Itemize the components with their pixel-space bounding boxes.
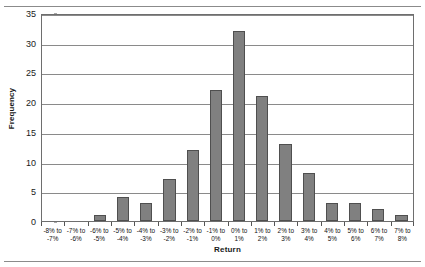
x-tick-mark [228, 222, 229, 226]
x-tick-label-line: -6% to [88, 227, 111, 235]
bar [187, 150, 199, 221]
x-tick-label-line: 4% to [321, 227, 344, 235]
x-tick-slot [321, 222, 344, 226]
x-tick-slot [251, 222, 274, 226]
x-tick-slot [274, 222, 297, 226]
x-tick-label: -7% to-6% [64, 227, 87, 242]
x-tick-label-line: 0% [204, 235, 227, 243]
x-tick-label: 5% to6% [344, 227, 367, 242]
x-tick-slot [88, 222, 111, 226]
x-tick-mark [251, 222, 252, 226]
y-tick-label: 30 [16, 39, 36, 48]
bar-slot [135, 15, 158, 221]
x-tick-mark [367, 222, 368, 226]
bar [210, 90, 222, 221]
x-tick-label-line: -5% to [111, 227, 134, 235]
x-axis-tick-marks [41, 222, 414, 226]
x-tick-label-line: 5% [321, 235, 344, 243]
y-tick-label: 15 [16, 128, 36, 137]
bar-series [42, 15, 413, 221]
bar [117, 197, 129, 221]
x-tick-label: -2% to-1% [181, 227, 204, 242]
x-tick-label-line: -2% to [181, 227, 204, 235]
x-tick-slot [367, 222, 390, 226]
x-tick-slot [158, 222, 181, 226]
x-tick-label-line: 3% [274, 235, 297, 243]
x-tick-label-line: -8% to [41, 227, 64, 235]
bar-slot [228, 15, 251, 221]
x-tick-slot [111, 222, 134, 226]
bar-slot [158, 15, 181, 221]
x-tick-label-line: 2% to [274, 227, 297, 235]
x-tick-mark [134, 222, 135, 226]
bar [349, 203, 361, 221]
x-axis-title: Return [41, 245, 414, 254]
x-tick-mark [88, 222, 89, 226]
y-tick-label: 5 [16, 188, 36, 197]
x-tick-label: 0% to1% [228, 227, 251, 242]
x-tick-label: -1% to0% [204, 227, 227, 242]
bar [256, 96, 268, 221]
bar-slot [204, 15, 227, 221]
x-tick-label-line: 7% to [391, 227, 414, 235]
y-tick-label: 25 [16, 69, 36, 78]
bar [279, 144, 291, 221]
y-tick-label: 35 [16, 10, 36, 19]
x-tick-label-line: 1% to [251, 227, 274, 235]
y-axis-tick-labels: 05101520253035 [16, 14, 36, 222]
x-tick-label-line: -1% to [204, 227, 227, 235]
x-tick-label-line: -5% [88, 235, 111, 243]
x-tick-mark [321, 222, 322, 226]
x-axis-tick-labels: -8% to-7%-7% to-6%-6% to-5%-5% to-4%-4% … [41, 227, 414, 242]
x-tick-mark [344, 222, 345, 226]
bar-slot [181, 15, 204, 221]
x-tick-label-line: 8% [391, 235, 414, 243]
x-tick-label: -3% to-2% [158, 227, 181, 242]
x-tick-mark [204, 222, 205, 226]
x-tick-label-line: -7% to [64, 227, 87, 235]
x-tick-mark [297, 222, 298, 226]
x-tick-label: 2% to3% [274, 227, 297, 242]
x-tick-label-line: 1% [228, 235, 251, 243]
x-tick-slot [41, 222, 64, 226]
bar-slot [112, 15, 135, 221]
plot-area [41, 14, 414, 222]
x-tick-label-line: -7% [41, 235, 64, 243]
x-tick-label: 6% to7% [367, 227, 390, 242]
x-tick-label-line: -3% [134, 235, 157, 243]
x-tick-slot [228, 222, 251, 226]
x-tick-label: 1% to2% [251, 227, 274, 242]
bar [163, 179, 175, 221]
x-tick-label-line: -1% [181, 235, 204, 243]
x-tick-label-line: 4% [297, 235, 320, 243]
x-tick-mark [111, 222, 112, 226]
x-tick-label-line: 0% to [228, 227, 251, 235]
x-tick-slot [181, 222, 204, 226]
x-tick-label-line: -6% [64, 235, 87, 243]
x-tick-label-line: 3% to [297, 227, 320, 235]
x-tick-label-line: -4% to [134, 227, 157, 235]
bar-slot [297, 15, 320, 221]
bar-slot [320, 15, 343, 221]
bar [94, 215, 106, 221]
x-tick-mark [181, 222, 182, 226]
bar-slot [65, 15, 88, 221]
bar-slot [251, 15, 274, 221]
page-rule-bottom [4, 261, 421, 262]
x-tick-label-line: -4% [111, 235, 134, 243]
x-tick-slot [204, 222, 227, 226]
page-rule-top [4, 6, 421, 7]
x-tick-label-line: 5% to [344, 227, 367, 235]
x-tick-label: 4% to5% [321, 227, 344, 242]
x-tick-label: -4% to-3% [134, 227, 157, 242]
x-tick-label: -5% to-4% [111, 227, 134, 242]
bar [395, 215, 407, 221]
bar [303, 173, 315, 221]
y-axis-title: Frequency [7, 69, 16, 149]
x-tick-label: 3% to4% [297, 227, 320, 242]
x-tick-mark [274, 222, 275, 226]
x-tick-mark [41, 222, 42, 226]
bar [140, 203, 152, 221]
histogram-figure: Frequency 05101520253035 -8% to-7%-7% to… [0, 0, 425, 267]
x-tick-label-line: 7% [367, 235, 390, 243]
